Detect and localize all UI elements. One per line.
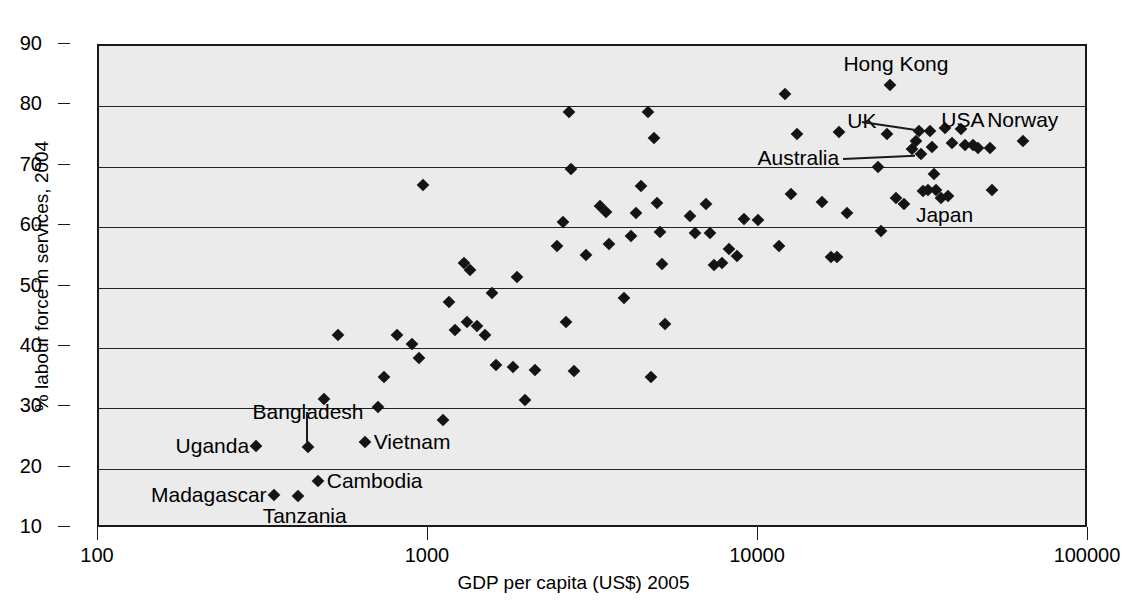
data-point (518, 393, 531, 406)
data-point (565, 163, 578, 176)
x-tick-label-100000: 100000 (1054, 543, 1121, 567)
data-point (738, 212, 751, 225)
annotation-cambodia: Cambodia (327, 469, 423, 493)
data-point (699, 197, 712, 210)
gridline-y-40 (99, 348, 1085, 349)
data-point (378, 370, 391, 383)
data-point-hong-kong (884, 79, 897, 92)
gridline-y-30 (99, 408, 1085, 409)
data-point (833, 125, 846, 138)
data-point (580, 249, 593, 262)
data-point (551, 240, 564, 253)
data-point (391, 328, 404, 341)
data-point (790, 128, 803, 141)
data-point (656, 258, 669, 271)
data-point-bangladesh (302, 441, 315, 454)
data-point (751, 214, 764, 227)
data-point (650, 197, 663, 210)
data-point (568, 364, 581, 377)
leader-line-australia (843, 154, 915, 159)
data-point (731, 250, 744, 263)
gridline-y-20 (99, 469, 1085, 470)
data-point (659, 317, 672, 330)
data-point (602, 238, 615, 251)
y-tick-mark (58, 103, 70, 104)
gridline-y-50 (99, 288, 1085, 289)
annotation-usa: USA (941, 108, 984, 132)
gridline-y-70 (99, 167, 1085, 168)
data-point (412, 351, 425, 364)
annotation-uganda: Uganda (176, 434, 250, 458)
y-tick-mark (58, 466, 70, 467)
annotation-norway: Norway (987, 108, 1058, 132)
data-point (449, 324, 462, 337)
data-point (872, 160, 885, 173)
data-point (926, 141, 939, 154)
data-point-uganda (250, 440, 263, 453)
data-point (635, 180, 648, 193)
data-point (779, 87, 792, 100)
y-tick-mark (58, 285, 70, 286)
data-point (560, 316, 573, 329)
x-tick-mark-10000 (757, 527, 758, 540)
plot-area: Hong KongUKUSANorwayAustraliaJapanBangla… (97, 44, 1087, 527)
data-point (562, 106, 575, 119)
x-tick-label-10000: 10000 (729, 543, 785, 567)
data-point (443, 296, 456, 309)
y-tick-mark (58, 405, 70, 406)
data-point (986, 184, 999, 197)
data-point (684, 210, 697, 223)
annotation-tanzania: Tanzania (263, 504, 347, 528)
data-point (641, 106, 654, 119)
data-point (372, 401, 385, 414)
data-point (689, 227, 702, 240)
data-point-madagascar (268, 489, 281, 502)
data-point (618, 291, 631, 304)
gridline-y-60 (99, 227, 1085, 228)
data-point (625, 229, 638, 242)
data-point (647, 131, 660, 144)
y-tick-label: 90 (20, 31, 42, 55)
data-point (928, 168, 941, 181)
annotation-hong-kong: Hong Kong (843, 52, 948, 76)
y-axis-title: % labour force in services, 2004 (31, 66, 53, 486)
data-point (436, 413, 449, 426)
y-tick-mark (58, 164, 70, 165)
x-tick-mark-100 (97, 527, 98, 540)
y-tick-mark (58, 345, 70, 346)
scatter-chart-figure: Hong KongUKUSANorwayAustraliaJapanBangla… (0, 0, 1147, 616)
y-tick-label: 10 (20, 514, 42, 538)
data-point (785, 188, 798, 201)
data-point (529, 363, 542, 376)
data-point-vietnam (359, 436, 372, 449)
data-point (881, 127, 894, 140)
y-tick-mark (58, 526, 70, 527)
x-tick-label-100: 100 (80, 543, 113, 567)
gridline-y-80 (99, 106, 1085, 107)
leader-line-bangladesh (306, 412, 308, 442)
data-point (479, 328, 492, 341)
y-tick-mark (58, 224, 70, 225)
data-point-tanzania (291, 490, 304, 503)
y-tick-mark (58, 43, 70, 44)
annotation-madagascar: Madagascar (151, 483, 267, 507)
annotation-japan: Japan (916, 203, 973, 227)
x-tick-mark-1000 (427, 527, 428, 540)
data-point (946, 136, 959, 149)
annotation-bangladesh: Bangladesh (253, 400, 364, 424)
data-point (983, 142, 996, 155)
data-point (511, 271, 524, 284)
data-point (815, 196, 828, 209)
data-point-cambodia (311, 475, 324, 488)
data-point (507, 360, 520, 373)
x-tick-mark-100000 (1087, 527, 1088, 540)
annotation-australia: Australia (757, 146, 839, 170)
x-tick-label-1000: 1000 (405, 543, 450, 567)
data-point (332, 329, 345, 342)
data-point (630, 207, 643, 220)
data-point (841, 206, 854, 219)
data-point (417, 178, 430, 191)
data-point (773, 240, 786, 253)
annotation-vietnam: Vietnam (374, 430, 451, 454)
data-point (644, 370, 657, 383)
